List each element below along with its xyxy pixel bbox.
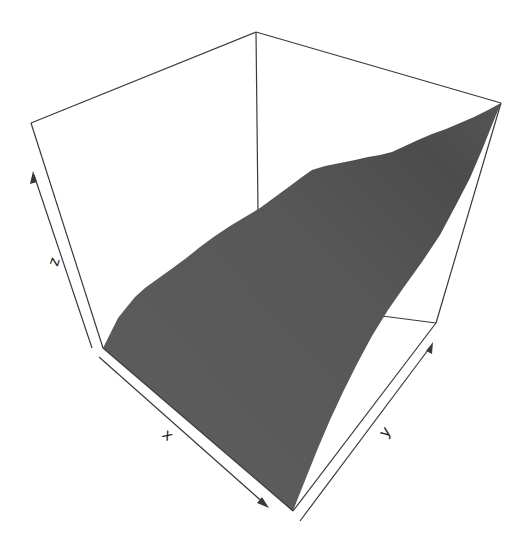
x-axis-label: x bbox=[159, 425, 178, 444]
z-axis: z bbox=[30, 171, 92, 348]
box-top-right-edge bbox=[256, 32, 501, 103]
persp-surface-plot: z x y bbox=[0, 0, 525, 545]
z-axis-arrowhead-icon bbox=[30, 171, 37, 184]
y-axis-label: y bbox=[375, 423, 395, 441]
box-top-left-edge bbox=[31, 32, 256, 123]
box-front-left-vertical-edge bbox=[31, 123, 103, 348]
